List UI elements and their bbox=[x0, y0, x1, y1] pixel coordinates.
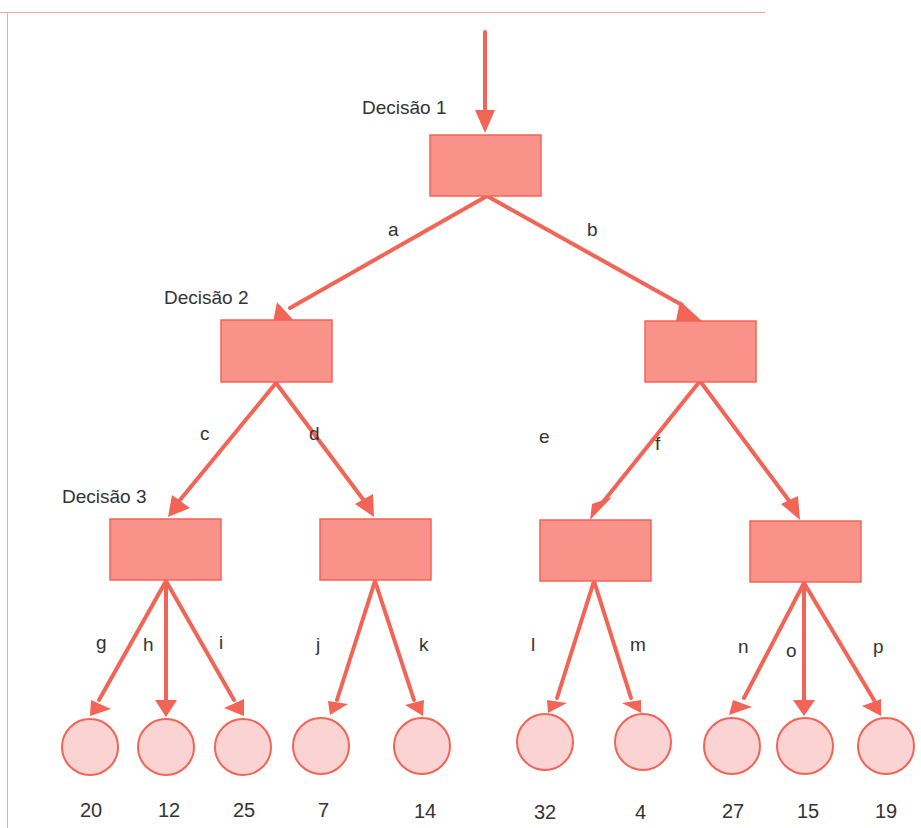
edge-b bbox=[487, 196, 682, 305]
edge-l bbox=[557, 581, 594, 698]
arrowhead-icon bbox=[328, 701, 348, 715]
outcome-node bbox=[62, 719, 118, 775]
arrowhead-icon bbox=[405, 700, 424, 716]
decision-node-3c bbox=[540, 520, 651, 581]
outcome-node bbox=[858, 718, 914, 774]
edge-label-g: g bbox=[96, 632, 107, 653]
decision-tree-diagram: Decisão 1 Decisão 2 Decisão 3 a b c d e … bbox=[0, 0, 921, 828]
outcome-node bbox=[138, 719, 194, 775]
outcome-node bbox=[215, 719, 271, 775]
decision-node-2a bbox=[221, 320, 332, 382]
outcome-node bbox=[704, 718, 760, 774]
edge-label-n: n bbox=[738, 636, 749, 657]
arrowhead-icon bbox=[781, 496, 800, 520]
edge-label-i: i bbox=[219, 632, 223, 653]
outcome-value-n: 27 bbox=[722, 800, 744, 822]
edge-i bbox=[166, 581, 234, 700]
edge-label-c: c bbox=[200, 423, 210, 444]
arrowheads bbox=[90, 110, 881, 717]
edge-a bbox=[290, 196, 487, 308]
outcome-node bbox=[394, 718, 450, 774]
outcome-value-l: 32 bbox=[534, 801, 556, 823]
edge-g bbox=[99, 581, 166, 700]
edge-p bbox=[804, 583, 874, 700]
arrowhead-icon bbox=[622, 700, 641, 713]
edge-f bbox=[700, 381, 790, 502]
outcome-node bbox=[777, 718, 833, 774]
decision-node-3d bbox=[750, 521, 861, 582]
arrowhead-icon bbox=[676, 301, 703, 322]
level-label-1: Decisão 1 bbox=[362, 97, 447, 118]
decision-node-2b bbox=[645, 321, 756, 382]
outcome-node bbox=[293, 718, 349, 774]
arrowhead-icon bbox=[590, 497, 612, 520]
outcome-value-m: 4 bbox=[635, 801, 646, 823]
arrowhead-icon bbox=[155, 700, 177, 717]
decision-node-3b bbox=[320, 519, 431, 580]
edge-label-e: e bbox=[539, 426, 550, 447]
edge-d bbox=[276, 383, 365, 502]
decision-node-3a bbox=[110, 519, 221, 580]
edge-j bbox=[337, 581, 375, 700]
arrowhead-icon bbox=[90, 700, 111, 716]
outcome-value-h: 12 bbox=[158, 799, 180, 821]
edge-label-a: a bbox=[388, 219, 399, 240]
edge-label-l: l bbox=[531, 634, 535, 655]
outcome-node bbox=[615, 714, 671, 770]
arrowhead-icon bbox=[793, 700, 815, 716]
outcome-value-k: 14 bbox=[414, 800, 436, 822]
edges bbox=[99, 32, 874, 701]
edge-k bbox=[375, 581, 414, 700]
edge-label-p: p bbox=[873, 636, 884, 657]
edge-m bbox=[594, 581, 631, 698]
arrowhead-icon bbox=[862, 699, 881, 716]
edge-label-h: h bbox=[143, 634, 154, 655]
outcome-value-p: 19 bbox=[875, 800, 897, 822]
edge-c bbox=[180, 383, 276, 500]
outcome-value-i: 25 bbox=[233, 799, 255, 821]
decision-node-1 bbox=[430, 135, 541, 196]
edge-label-j: j bbox=[315, 634, 320, 655]
outcome-nodes bbox=[62, 714, 914, 775]
outcome-node bbox=[517, 714, 573, 770]
edge-label-f: f bbox=[655, 433, 661, 454]
arrowhead-icon bbox=[547, 700, 567, 713]
edge-label-k: k bbox=[419, 634, 429, 655]
arrowhead-icon bbox=[355, 494, 374, 517]
outcome-value-o: 15 bbox=[797, 800, 819, 822]
edge-label-o: o bbox=[786, 640, 797, 661]
edge-label-b: b bbox=[587, 219, 598, 240]
edge-label-d: d bbox=[309, 423, 320, 444]
level-label-3: Decisão 3 bbox=[62, 486, 147, 507]
decision-nodes bbox=[110, 135, 861, 582]
outcome-value-g: 20 bbox=[80, 799, 102, 821]
arrowhead-icon bbox=[729, 700, 752, 715]
level-label-2: Decisão 2 bbox=[164, 287, 249, 308]
arrowhead-icon bbox=[475, 110, 495, 133]
edge-e bbox=[603, 381, 700, 502]
edge-label-m: m bbox=[630, 634, 646, 655]
outcome-value-j: 7 bbox=[318, 799, 329, 821]
